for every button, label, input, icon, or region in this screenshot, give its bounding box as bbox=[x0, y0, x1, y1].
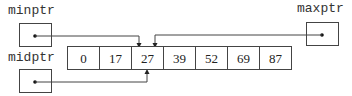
minptr-label: minptr bbox=[8, 3, 55, 18]
maxptr-arrow bbox=[155, 35, 322, 45]
array-value: 69 bbox=[237, 51, 250, 66]
array-value: 39 bbox=[173, 51, 186, 66]
array-value: 0 bbox=[80, 51, 87, 66]
array-value: 27 bbox=[141, 51, 155, 66]
midptr-label: midptr bbox=[8, 50, 55, 65]
array-value: 52 bbox=[205, 51, 218, 66]
array-value: 17 bbox=[109, 51, 123, 66]
pointer-array-diagram: minptr maxptr midptr 0 17 27 39 52 69 87 bbox=[0, 0, 352, 96]
array: 0 17 27 39 52 69 87 bbox=[68, 47, 292, 70]
maxptr-label: maxptr bbox=[297, 1, 344, 16]
array-value: 87 bbox=[269, 51, 283, 66]
